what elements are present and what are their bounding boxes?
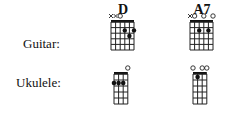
ukulele-a7-diagram: [187, 62, 217, 108]
guitar-row-label: Guitar:: [23, 36, 60, 52]
guitar-a7-diagram: [183, 12, 223, 54]
guitar-d-diagram: [104, 12, 144, 54]
ukulele-row-label: Ukulele:: [16, 75, 61, 91]
ukulele-d-diagram: [108, 62, 138, 108]
